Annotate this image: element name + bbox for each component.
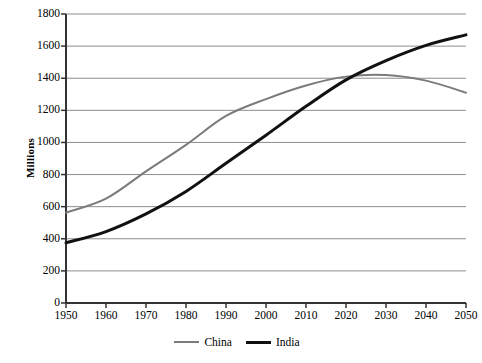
y-tick-label: 600 [26, 201, 60, 213]
legend-item-india[interactable]: India [246, 336, 300, 348]
x-tick-label: 2020 [324, 309, 368, 321]
x-tick-label: 1950 [44, 309, 88, 321]
legend-label: China [204, 336, 231, 348]
x-tick-label: 1970 [124, 309, 168, 321]
x-tick-label: 1990 [204, 309, 248, 321]
x-tick-label: 1980 [164, 309, 208, 321]
x-tick-label: 2010 [284, 309, 328, 321]
legend-label: India [276, 336, 300, 348]
y-tick-label: 200 [26, 265, 60, 277]
y-tick-label: 800 [26, 169, 60, 181]
y-tick-label: 1000 [26, 136, 60, 148]
y-tick-label: 400 [26, 233, 60, 245]
x-tick-label: 2000 [244, 309, 288, 321]
legend-line-swatch-icon [174, 341, 199, 343]
x-tick-label: 2050 [444, 309, 482, 321]
x-tick-label: 2040 [404, 309, 448, 321]
y-tick-label: 1600 [26, 40, 60, 52]
series-lines [66, 35, 466, 243]
legend-line-swatch-icon [246, 341, 271, 344]
chart-legend: ChinaIndia [0, 336, 474, 348]
x-tick-label: 1960 [84, 309, 128, 321]
y-tick-label: 0 [26, 297, 60, 309]
y-tick-label: 1800 [26, 8, 60, 20]
x-tick-label: 2030 [364, 309, 408, 321]
series-line-china [66, 75, 466, 213]
y-tick-label: 1200 [26, 104, 60, 116]
legend-item-china[interactable]: China [174, 336, 231, 348]
series-line-india [66, 35, 466, 243]
y-tick-label: 1400 [26, 72, 60, 84]
